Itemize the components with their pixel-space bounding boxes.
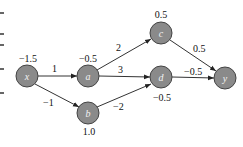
node-d-value: −0.5: [153, 92, 171, 103]
weight-a-c: 2: [116, 42, 121, 53]
weight-a-d: 3: [118, 64, 123, 75]
edge-b-d: [97, 84, 151, 107]
node-c-value: 0.5: [155, 9, 168, 20]
node-c-label: c: [159, 28, 164, 39]
node-b-value: 1.0: [83, 126, 96, 137]
node-b: b 1.0: [77, 102, 99, 137]
weight-x-a: 1: [52, 63, 57, 74]
edge-x-b: [35, 84, 79, 107]
node-x-label: x: [24, 71, 30, 82]
node-c: c 0.5: [150, 9, 172, 44]
node-a: a −0.5: [77, 53, 99, 87]
node-y-label: y: [222, 73, 228, 84]
computational-graph: 1 −1 2 3 −2 0.5 −0.5 x −1.5 a −0.5 b 1.0…: [0, 0, 243, 147]
edge-a-c: [97, 39, 151, 70]
node-a-label: a: [86, 71, 91, 82]
weight-c-y: 0.5: [193, 43, 206, 54]
edge-d-y: [172, 77, 214, 78]
weight-x-b: −1: [43, 97, 54, 108]
node-x: x −1.5: [16, 53, 38, 87]
node-d: d −0.5: [150, 66, 172, 103]
edge-a-d: [99, 76, 150, 77]
node-a-value: −0.5: [79, 53, 97, 64]
node-x-value: −1.5: [19, 53, 37, 64]
node-b-label: b: [86, 108, 91, 119]
weight-b-d: −2: [113, 101, 124, 112]
weight-d-y: −0.5: [184, 66, 202, 77]
node-y: y: [214, 67, 236, 89]
